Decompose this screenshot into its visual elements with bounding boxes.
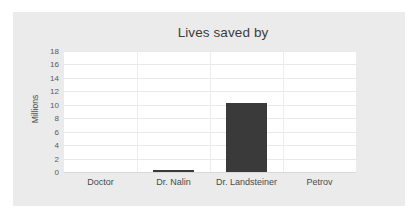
- x-axis-tick-label: Petrov: [306, 177, 332, 187]
- y-axis-tick-label: 10: [29, 100, 59, 109]
- y-axis-tick-label: 12: [29, 87, 59, 96]
- y-axis-tick-label: 6: [29, 127, 59, 136]
- gridline: [64, 172, 356, 173]
- y-axis-tick-label: 8: [29, 114, 59, 123]
- chart-card: Lives saved by Millions 024681012141618 …: [13, 12, 405, 206]
- bar: [153, 170, 194, 172]
- x-axis-tick-label: Dr. Nalin: [156, 177, 191, 187]
- bar: [226, 103, 267, 172]
- y-axis-tick-label: 0: [29, 168, 59, 177]
- category-separator: [210, 51, 211, 172]
- category-separator: [137, 51, 138, 172]
- x-axis-tick-label: Dr. Landsteiner: [216, 177, 277, 187]
- chart-title: Lives saved by: [77, 25, 369, 40]
- plot-area: [64, 51, 356, 172]
- x-axis-tick-label: Doctor: [87, 177, 114, 187]
- y-axis-tick-label: 4: [29, 141, 59, 150]
- category-separator: [283, 51, 284, 172]
- y-axis-tick-label: 16: [29, 60, 59, 69]
- y-axis-tick-label: 2: [29, 154, 59, 163]
- y-axis-tick-label: 18: [29, 47, 59, 56]
- y-axis-tick-label: 14: [29, 73, 59, 82]
